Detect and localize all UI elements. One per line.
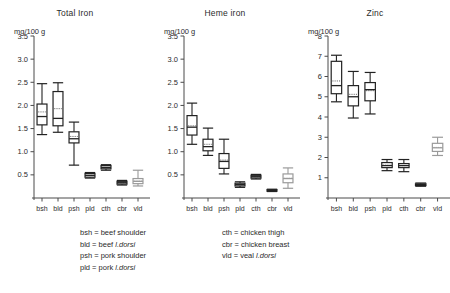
legend-item-psh: psh = pork shoulder — [80, 250, 146, 262]
y-tick-label: 3.0 — [18, 55, 28, 64]
panel-total-iron: Total Iron mg/100 g 0.51.01.52.02.53.03.… — [0, 0, 150, 218]
boxplot-box-pld — [85, 173, 95, 179]
boxplot-box-psh — [219, 139, 229, 174]
legend-species-italic: l.dorsi — [115, 240, 135, 249]
boxplot-box-cbr — [267, 189, 277, 191]
boxplot-box-cbr — [117, 180, 127, 185]
x-tick-label-bld: bld — [53, 205, 62, 212]
y-tick-label: 0.5 — [168, 170, 178, 179]
boxplot-box-psh — [365, 72, 376, 114]
x-tick-label-cbr: cbr — [117, 205, 127, 212]
y-tick-label: 7 — [318, 52, 322, 61]
y-tick-label: 1.5 — [18, 124, 28, 133]
x-tick-label-bld: bld — [349, 205, 358, 212]
y-tick-label: 2.0 — [168, 101, 178, 110]
y-tick-label: 1 — [318, 173, 322, 182]
boxplot-box-vld — [432, 137, 443, 155]
x-tick-label-bsh: bsh — [331, 205, 342, 212]
y-tick-label: 0.5 — [18, 170, 28, 179]
legend-item-vld: vld = veal l.dorsi — [222, 250, 289, 262]
boxplot-heme-iron: 0.51.01.52.02.53.03.5bshbldpshpldcthcbrv… — [150, 0, 300, 218]
x-tick-label-cth: cth — [251, 205, 260, 212]
boxplot-box-cth — [398, 160, 409, 172]
y-tick-label: 3.0 — [168, 55, 178, 64]
boxplot-box-bsh — [331, 55, 342, 102]
y-tick-label: 2 — [318, 153, 322, 162]
boxplot-box-cbr — [415, 183, 426, 186]
boxplot-box-vld — [133, 170, 143, 186]
y-tick-label: 6 — [318, 72, 322, 81]
panel-heme-iron: Heme iron mg/100 g 0.51.01.52.02.53.03.5… — [150, 0, 300, 218]
y-tick-label: 8 — [318, 32, 322, 41]
boxplot-box-bsh — [187, 103, 197, 144]
boxplot-box-cth — [101, 165, 111, 171]
x-tick-label-pld: pld — [235, 205, 244, 213]
x-tick-label-psh: psh — [364, 205, 375, 213]
y-tick-label: 5 — [318, 92, 322, 101]
y-tick-label: 1.0 — [168, 147, 178, 156]
y-tick-label: 2.0 — [18, 101, 28, 110]
legend-item-vld-text: vld = veal l.dorsi — [222, 251, 276, 260]
y-tick-label: 2.5 — [168, 78, 178, 87]
x-tick-label-cth: cth — [399, 205, 408, 212]
boxplot-box-bld — [203, 128, 213, 155]
boxplot-box-psh — [69, 122, 79, 165]
legend-item-pld-text: pld = pork l.dorsi — [80, 263, 135, 272]
x-tick-label-cth: cth — [101, 205, 110, 212]
legend-item-cbr: cbr = chicken breast — [222, 239, 289, 251]
x-tick-label-vld: vld — [433, 205, 442, 212]
y-tick-label: 3.5 — [18, 32, 28, 41]
legend-species-italic: l.dorsi — [256, 251, 276, 260]
boxplot-box-bld — [348, 71, 359, 118]
x-tick-label-bsh: bsh — [186, 205, 197, 212]
boxplot-box-cth — [251, 174, 261, 179]
boxplot-box-vld — [283, 168, 293, 188]
x-tick-label-vld: vld — [284, 205, 293, 212]
legend-item-bld-text: bld = beef l.dorsi — [80, 240, 135, 249]
boxplot-box-pld — [235, 182, 245, 188]
y-tick-label: 4 — [318, 113, 322, 122]
figure-root: Total Iron mg/100 g 0.51.01.52.02.53.03.… — [0, 0, 450, 293]
y-tick-label: 1.5 — [168, 124, 178, 133]
x-tick-label-vld: vld — [134, 205, 143, 212]
boxplot-box-pld — [382, 160, 393, 171]
legend-item-bsh: bsh = beef shoulder — [80, 227, 146, 239]
x-tick-label-pld: pld — [85, 205, 94, 213]
x-tick-label-pld: pld — [382, 205, 391, 213]
boxplot-total-iron: 0.51.01.52.02.53.03.5bshbldpshpldcthcbrv… — [0, 0, 150, 218]
x-tick-label-bsh: bsh — [36, 205, 47, 212]
legend-right-column: cth = chicken thigh cbr = chicken breast… — [222, 227, 289, 262]
y-tick-label: 2.5 — [18, 78, 28, 87]
x-tick-label-cbr: cbr — [267, 205, 277, 212]
x-tick-label-bld: bld — [203, 205, 212, 212]
y-tick-label: 1.0 — [18, 147, 28, 156]
x-tick-label-psh: psh — [218, 205, 229, 213]
panel-zinc: Zinc mg/100 g 12345678bshbldpshpldcthcbr… — [300, 0, 450, 218]
y-tick-label: 3.5 — [168, 32, 178, 41]
legend-item-bld: bld = beef l.dorsi — [80, 239, 146, 251]
legend-left-column: bsh = beef shoulder bld = beef l.dorsi p… — [80, 227, 146, 273]
boxplot-box-bld — [53, 83, 63, 133]
y-tick-label: 3 — [318, 133, 322, 142]
boxplot-zinc: 12345678bshbldpshpldcthcbrvld — [300, 0, 450, 218]
boxplot-box-bsh — [37, 84, 47, 135]
x-tick-label-cbr: cbr — [416, 205, 426, 212]
legend-species-italic: l.dorsi — [115, 263, 135, 272]
legend-item-pld: pld = pork l.dorsi — [80, 262, 146, 274]
legend-item-cth: cth = chicken thigh — [222, 227, 289, 239]
x-tick-label-psh: psh — [68, 205, 79, 213]
